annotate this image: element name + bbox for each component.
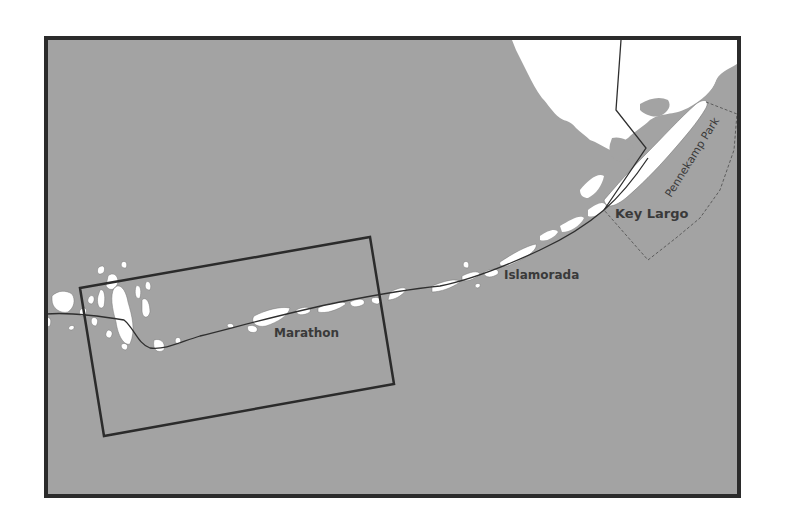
label-key-largo: Key Largo — [615, 206, 688, 221]
label-islamorada: Islamorada — [504, 268, 579, 282]
islet — [699, 89, 703, 93]
label-marathon: Marathon — [274, 326, 339, 340]
florida-keys-map: Key Largo Islamorada Marathon Pennekamp … — [0, 0, 785, 526]
